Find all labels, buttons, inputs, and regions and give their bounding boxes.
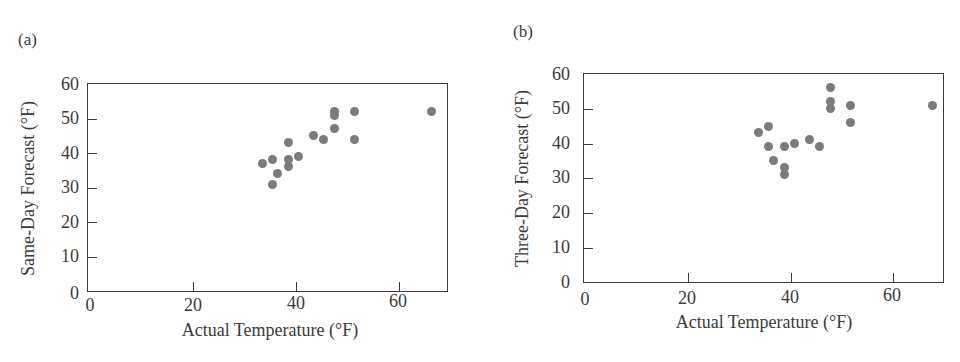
chart-panel-b: (b) Three-Day Forecast (°F) 60 50 40 30 … [0, 0, 960, 362]
data-point [928, 101, 937, 110]
x-axis-title-b: Actual Temperature (°F) [654, 312, 874, 333]
y-tick-mark [584, 109, 593, 110]
y-tick-label: 40 [540, 134, 570, 152]
x-tick-mark [893, 273, 894, 282]
data-point [846, 118, 855, 127]
x-tick-mark [688, 273, 689, 282]
data-point [826, 104, 835, 113]
y-tick-label: 10 [540, 238, 570, 256]
x-tick-label: 20 [667, 289, 707, 307]
y-tick-mark [584, 248, 593, 249]
y-tick-label: 0 [540, 273, 570, 291]
y-tick-label: 60 [540, 65, 570, 83]
panel-label-b: (b) [513, 22, 533, 42]
x-tick-label: 60 [872, 286, 912, 304]
y-tick-mark [584, 213, 593, 214]
data-point [846, 101, 855, 110]
y-tick-label: 20 [540, 203, 570, 221]
x-tick-mark [791, 273, 792, 282]
data-point [790, 139, 799, 148]
y-tick-label: 50 [540, 99, 570, 117]
data-point [764, 142, 773, 151]
data-point [780, 142, 789, 151]
y-tick-mark [584, 178, 593, 179]
y-tick-mark [584, 144, 593, 145]
x-tick-label: 40 [770, 288, 810, 306]
plot-area-b [583, 73, 944, 283]
data-point [754, 128, 763, 137]
data-point [764, 122, 773, 131]
data-point [815, 142, 824, 151]
y-tick-label: 30 [540, 168, 570, 186]
data-point [826, 83, 835, 92]
y-axis-title-b: Three-Day Forecast (°F) [512, 79, 533, 279]
x-tick-label: 0 [565, 290, 605, 308]
data-point [769, 156, 778, 165]
data-point [780, 170, 789, 179]
data-point [805, 135, 814, 144]
